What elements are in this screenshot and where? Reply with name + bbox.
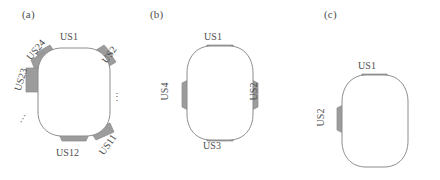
panel-c-body (342, 75, 408, 167)
panel-a-ellipsis-right-icon: ⋮ (112, 91, 123, 102)
panel-a-label-us1: US1 (60, 31, 78, 42)
panel-b-body (187, 46, 253, 140)
panel-c: (c) US1 US2 (292, 0, 440, 180)
panel-b-label-us3: US3 (203, 140, 221, 151)
figure-root: (a) US1 US2 (0, 0, 440, 180)
panel-a-label-us12: US12 (56, 147, 79, 158)
panel-a-body (38, 48, 110, 136)
panel-b: (b) US1 US2 US3 US4 (145, 0, 295, 180)
panel-c-drawing (292, 0, 440, 180)
panel-a: (a) US1 US2 (0, 0, 150, 180)
panel-c-label-us1: US1 (358, 60, 376, 71)
panel-c-label-us2: US2 (315, 108, 326, 126)
panel-b-label-us2: US2 (248, 82, 259, 100)
panel-b-label-us1: US1 (204, 31, 222, 42)
panel-b-label-us4: US4 (159, 82, 170, 100)
